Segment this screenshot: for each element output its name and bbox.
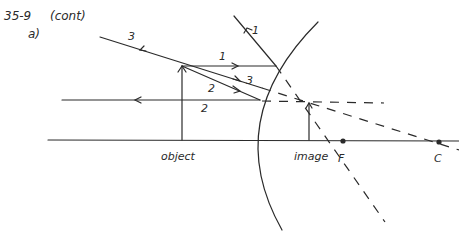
ray-2-label: 2: [208, 82, 215, 95]
focal-point-dot: [340, 138, 345, 143]
ray-3-label: 3: [128, 30, 135, 43]
ray-1-reflected-label: 1: [252, 24, 259, 37]
object-label: object: [161, 150, 196, 163]
ray-2-extension: [262, 101, 384, 103]
ray-1-label: 1: [219, 50, 226, 63]
ray-3-outgoing-arrow-icon: [140, 46, 146, 51]
center-point-dot: [436, 139, 441, 144]
ray-1-extension: [276, 66, 385, 222]
ray-3-incoming-arrow-icon: [233, 76, 240, 81]
problem-note: (cont): [50, 9, 86, 23]
focal-point-label: F: [338, 152, 345, 165]
principal-axis: [48, 140, 459, 141]
ray-2-reflected-label: 2: [201, 102, 208, 115]
ray-diagram: 35-9 (cont) a) 3 1 1 3 2 2 object image …: [0, 0, 459, 233]
part-label: a): [28, 27, 40, 41]
ray-3-inner-label: 3: [246, 74, 253, 87]
center-label: C: [434, 152, 442, 165]
image-label: image: [294, 150, 328, 163]
problem-number: 35-9: [4, 9, 31, 23]
